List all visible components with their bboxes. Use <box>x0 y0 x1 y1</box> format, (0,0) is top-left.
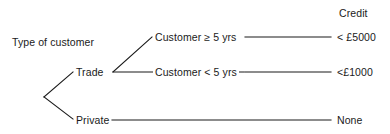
decision-tree-diagram: Type of customer Credit Trade Private Cu… <box>0 0 390 134</box>
root-label: Type of customer <box>12 36 94 48</box>
outcome-credit-none: None <box>337 114 363 126</box>
branch-condition-customer-under-5yrs: Customer < 5 yrs <box>153 66 239 78</box>
edge-trade-to-senior <box>113 37 152 72</box>
branch-condition-customer-5yrs-or-more: Customer ≥ 5 yrs <box>153 31 238 43</box>
node-trade: Trade <box>76 66 104 78</box>
outcome-credit-5000: < £5000 <box>337 31 376 43</box>
edge-root-to-trade <box>44 72 73 97</box>
credit-column-header: Credit <box>339 7 368 19</box>
edge-root-to-private <box>44 97 73 119</box>
node-private: Private <box>76 114 109 126</box>
outcome-credit-1000: <£1000 <box>337 66 373 78</box>
